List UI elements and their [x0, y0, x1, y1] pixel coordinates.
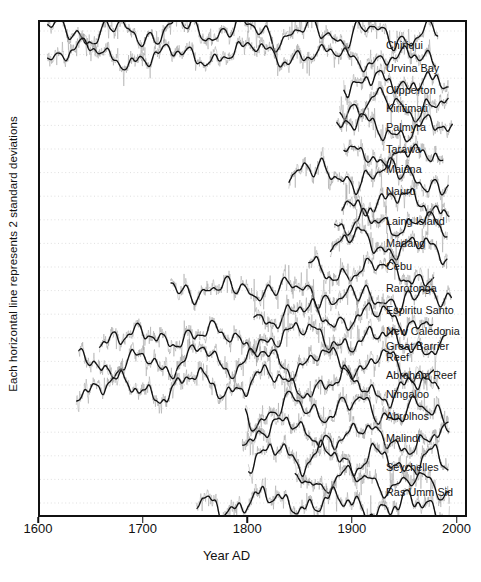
- x-tick-mark-2000: [456, 517, 458, 523]
- x-tick-1800: 1800: [233, 521, 262, 536]
- coral-records-figure: Each horizontal line represents 2 standa…: [0, 0, 481, 582]
- gridlines: [40, 31, 465, 503]
- record-urvina-bay: [47, 31, 436, 86]
- x-tick-1600: 1600: [24, 521, 53, 536]
- record-tarawa: [344, 135, 444, 175]
- record-palmyra: [336, 102, 452, 151]
- record-ras-umm-sid: [197, 478, 450, 515]
- x-tick-mark-1900: [351, 517, 353, 523]
- record-espiritu-santo: [254, 292, 433, 340]
- x-axis-label: Year AD: [0, 548, 481, 563]
- record-abraham-reef: [76, 357, 439, 416]
- x-tick-1700: 1700: [128, 521, 157, 536]
- x-axis-label-text: Year AD: [203, 548, 250, 563]
- x-tick-1900: 1900: [337, 521, 366, 536]
- record-madang: [330, 209, 447, 269]
- plot-area: [38, 20, 467, 517]
- record-cebu: [308, 246, 433, 294]
- x-tick-mark-1700: [142, 517, 144, 523]
- x-tick-mark-1800: [247, 517, 249, 523]
- x-axis-tick-labels: 16001700180019002000: [0, 521, 481, 541]
- y-axis-label: Each horizontal line represents 2 standa…: [7, 19, 19, 489]
- x-tick-2000: 2000: [442, 521, 471, 536]
- series-canvas: [40, 22, 465, 515]
- x-tick-mark-1600: [37, 517, 39, 523]
- record-seychelles: [295, 458, 449, 507]
- record-nauru: [342, 176, 450, 235]
